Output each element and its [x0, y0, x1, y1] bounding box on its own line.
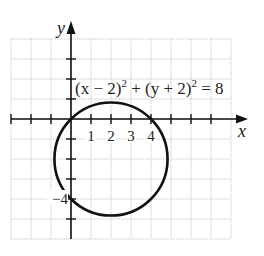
y-tick-labels: −4 [47, 190, 68, 207]
y-axis-arrow-icon [67, 21, 76, 34]
y-tick-label: −4 [52, 191, 68, 207]
x-axis-label: x [237, 121, 246, 141]
x-tick-label: 3 [127, 128, 135, 144]
coordinate-plane-diagram: y x 1234 −4 (x − 2)2 + (y + 2)2 = 8 [0, 0, 264, 256]
grid [11, 39, 231, 239]
x-tick-label: 1 [87, 128, 95, 144]
x-tick-labels: 1234 [86, 128, 156, 144]
equation-part1: (x − 2) [75, 79, 121, 98]
x-tick-label: 4 [147, 128, 155, 144]
equation-part3: = 8 [197, 79, 224, 98]
circle-equation: (x − 2)2 + (y + 2)2 = 8 [75, 77, 224, 98]
equation-part2: + (y + 2) [127, 79, 192, 98]
x-tick-label: 2 [107, 128, 115, 144]
y-axis-label: y [55, 18, 65, 38]
